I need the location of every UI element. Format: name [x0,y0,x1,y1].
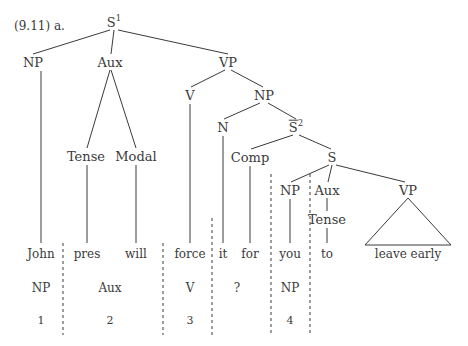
tree-node-text-VP-emb: VP [399,183,417,198]
constituent-number: 1 [38,315,45,326]
tree-node-S-emb: S [328,151,337,164]
syntax-tree-figure: (9.11) a. S1NPAuxVPTenseModalVNPNS2CompS… [0,0,468,346]
tree-node-text-V: V [185,88,194,103]
tree-node-superscript-S1: 1 [116,13,121,23]
category-label: NP [281,282,300,294]
tree-edge-S1-to-NP-subj [33,30,110,54]
tree-node-VP-main: VP [219,56,237,69]
terminal-word: leave early [375,248,441,260]
tree-node-Comp: Comp [231,151,269,164]
terminal-word: to [321,248,333,260]
tree-node-N: N [217,121,228,134]
tree-node-text-Sbar2: S [289,120,298,135]
tree-node-Aux-main: Aux [97,56,122,69]
tree-node-V: V [185,89,194,102]
tree-node-text-Aux-emb: Aux [314,183,339,198]
tree-node-text-Tense-1: Tense [67,149,105,164]
tree-edge-VP-main-to-NP-obj [231,70,263,87]
tree-edge-NP-obj-to-Sbar2 [268,103,296,119]
tree-node-S1: S1 [107,16,121,29]
vp-triangle-shape [365,198,451,245]
tree-edge-S-emb-to-NP-emb [291,165,329,182]
terminal-word: John [27,248,55,260]
tree-node-text-VP-main: VP [219,55,237,70]
tree-node-VP-emb: VP [399,184,417,197]
tree-edge-NP-obj-to-N [224,103,260,119]
tree-node-text-NP-emb: NP [280,183,300,198]
tree-node-text-Tense-2: Tense [308,212,346,227]
tree-node-NP-emb: NP [280,184,300,197]
terminal-word: you [279,248,301,260]
tree-node-text-NP-obj: NP [254,88,274,103]
tree-node-text-Modal: Modal [115,149,156,164]
terminal-word: for [241,248,258,260]
tree-edge-VP-main-to-V [191,70,225,87]
terminal-word: will [125,248,147,260]
tree-edge-S1-to-VP-main [118,30,228,54]
tree-node-Tense-2: Tense [308,213,346,226]
example-number-label: (9.11) a. [14,20,65,32]
tree-edge-S1-to-Aux-main [111,30,114,54]
tree-edge-Aux-main-to-Modal [111,70,136,148]
tree-node-Modal: Modal [115,150,156,163]
tree-node-text-N: N [217,120,228,135]
tree-node-text-NP-subj: NP [23,55,43,70]
tree-edge-Aux-main-to-Tense-1 [87,70,110,148]
tree-node-text-S1: S [107,15,116,30]
constituent-number: 3 [187,315,194,326]
constituent-number: 4 [287,315,294,326]
vp-triangle [365,198,451,245]
terminal-word: pres [74,248,101,260]
tree-node-NP-obj: NP [254,89,274,102]
tree-edge-Sbar2-to-Comp [251,135,293,149]
tree-node-Sbar2: S2 [289,120,303,135]
category-label: NP [32,282,51,294]
category-label: Aux [98,282,121,294]
category-label: ? [234,282,240,294]
tree-edge-S-emb-to-Aux-emb [328,165,332,182]
tree-node-text-Comp: Comp [231,150,269,165]
constituent-number: 2 [107,315,114,326]
tree-edge-Sbar2-to-S-emb [299,135,331,149]
terminal-word: force [174,248,205,260]
tree-node-text-S-emb: S [328,150,337,165]
category-label: V [186,282,195,294]
tree-node-superscript-Sbar2: 2 [298,118,303,128]
tree-node-Tense-1: Tense [67,150,105,163]
tree-node-Aux-emb: Aux [314,184,339,197]
tree-edge-S-emb-to-VP-emb [336,165,405,182]
tree-node-text-Aux-main: Aux [97,55,122,70]
tree-node-NP-subj: NP [23,56,43,69]
terminal-word: it [219,248,228,260]
